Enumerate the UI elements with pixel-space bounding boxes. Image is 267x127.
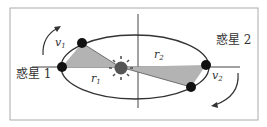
planet-1-label: 惑星 1	[16, 67, 51, 81]
r2-label: r2	[154, 48, 164, 62]
swept-area-1	[62, 43, 120, 67]
v2-label: v2	[212, 69, 223, 83]
planet-1-position-b	[57, 62, 67, 72]
planet-2-position-b	[186, 82, 196, 92]
v1-label: v1	[55, 36, 66, 50]
planet-2-label: 惑星 2	[216, 33, 251, 47]
planet-2-position-a	[201, 60, 211, 70]
r1-label: r1	[91, 72, 101, 86]
kepler-orbit-diagram: 惑星 1 惑星 2 v1 v2 r1 r2	[0, 0, 267, 127]
planet-1-position-a	[77, 38, 87, 48]
